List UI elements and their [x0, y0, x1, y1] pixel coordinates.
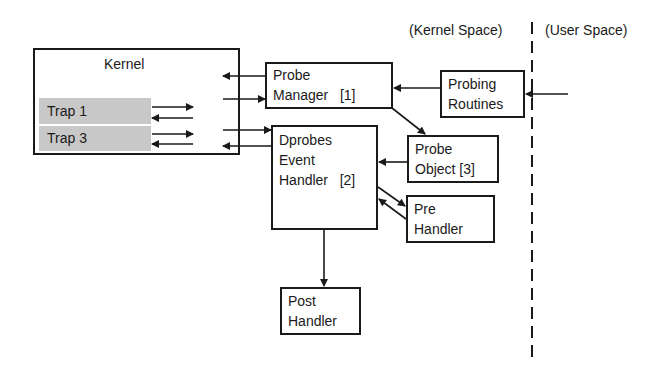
- probe-object-line2: Object [3]: [415, 159, 475, 179]
- pre-handler-box: Pre Handler: [406, 195, 495, 243]
- probing-routines-line2: Routines: [448, 94, 503, 114]
- post-handler-line1: Post: [288, 291, 316, 311]
- dprobes-line1: Dprobes: [279, 130, 332, 150]
- probing-routines-box: Probing Routines: [440, 70, 525, 118]
- probe-object-line1: Probe: [415, 139, 452, 159]
- kernel-space-label: (Kernel Space): [409, 22, 502, 38]
- probe-object-box: Probe Object [3]: [407, 135, 499, 183]
- post-handler-line2: Handler: [288, 311, 337, 331]
- trap-3: Trap 3: [39, 126, 151, 151]
- kernel-title: Kernel: [104, 54, 144, 74]
- probe-manager-line1: Probe: [273, 65, 310, 85]
- dprobes-line3: Handler [2]: [279, 170, 355, 190]
- dprobes-event-handler-box: Dprobes Event Handler [2]: [271, 125, 378, 230]
- trap-1: Trap 1: [39, 98, 151, 124]
- kernel-box: Kernel Trap 1 Trap 3: [33, 48, 240, 155]
- dprobes-to-pre-handler-arrow: [378, 187, 405, 206]
- post-handler-box: Post Handler: [280, 287, 361, 335]
- user-space-label: (User Space): [545, 22, 627, 38]
- trap-1-label: Trap 1: [47, 101, 87, 121]
- probe-manager-box: Probe Manager [1]: [265, 62, 393, 109]
- pre-handler-line2: Handler: [414, 219, 463, 239]
- probing-routines-line1: Probing: [448, 74, 496, 94]
- trap-3-label: Trap 3: [47, 128, 87, 148]
- pre-handler-to-dprobes-arrow: [379, 199, 406, 219]
- pre-handler-line1: Pre: [414, 199, 436, 219]
- probe-manager-to-probe-object-arrow: [392, 108, 425, 134]
- probe-manager-line2: Manager [1]: [273, 85, 356, 105]
- dprobes-line2: Event: [279, 150, 315, 170]
